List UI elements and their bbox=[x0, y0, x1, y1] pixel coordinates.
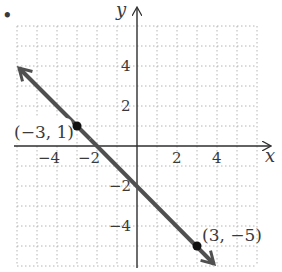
y-axis-label: y bbox=[115, 0, 127, 20]
point-label-a: (−3, 1) bbox=[14, 122, 74, 142]
point-label-b: (3, −5) bbox=[202, 225, 262, 245]
x-tick-label: 4 bbox=[212, 149, 222, 167]
x-tick-label: −4 bbox=[38, 149, 60, 167]
problem-bullet: • bbox=[2, 5, 13, 26]
x-tick-label: 2 bbox=[172, 149, 182, 167]
coordinate-plane: • x y −4 −2 2 4 4 2 −2 −4 bbox=[0, 0, 282, 272]
x-axis-label: x bbox=[265, 145, 275, 166]
y-tick-label: 2 bbox=[121, 97, 131, 115]
y-tick-label: −4 bbox=[109, 217, 131, 235]
x-tick-label: −2 bbox=[78, 149, 100, 167]
point-marker-b bbox=[193, 242, 202, 251]
y-tick-label: 4 bbox=[121, 57, 131, 75]
